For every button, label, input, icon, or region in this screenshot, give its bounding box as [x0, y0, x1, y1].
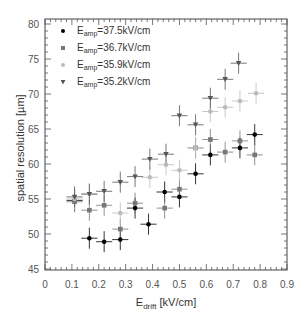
data-point — [177, 195, 182, 200]
data-point — [162, 206, 167, 211]
legend-label-sub: amp — [84, 81, 98, 89]
data-point — [208, 109, 213, 114]
data-point — [102, 203, 107, 208]
data-point — [177, 187, 182, 192]
x-tick-label: 0.9 — [280, 279, 294, 290]
data-point — [162, 190, 167, 195]
data-point — [238, 99, 243, 104]
y-tick-label: 80 — [28, 19, 40, 30]
data-point — [133, 206, 138, 211]
data-point — [252, 132, 257, 137]
y-axis-title: spatial resolution [µm] — [14, 94, 26, 201]
data-point — [146, 222, 151, 227]
data-point — [177, 168, 182, 173]
x-tick-label: 0.2 — [92, 279, 106, 290]
x-tick-label: 0.8 — [253, 279, 267, 290]
legend-label-sub: amp — [84, 64, 98, 72]
data-point — [238, 139, 243, 144]
data-point — [87, 208, 92, 213]
x-tick-label: 0.5 — [172, 279, 186, 290]
x-tick-label: 0.6 — [199, 279, 213, 290]
legend-marker-icon — [61, 46, 65, 50]
y-tick-label: 55 — [28, 194, 40, 205]
legend-marker-icon — [61, 29, 65, 33]
chart: 00.10.20.30.40.50.60.70.80.9455055606570… — [0, 0, 306, 328]
y-tick-label: 70 — [28, 89, 40, 100]
legend-label-value: =37.5kV/cm — [97, 25, 150, 36]
data-point — [193, 146, 198, 151]
data-point — [223, 105, 228, 110]
x-tick-label: 0.3 — [119, 279, 133, 290]
data-point — [164, 162, 169, 167]
legend-label-value: =35.9kV/cm — [97, 59, 150, 70]
x-axis-title-sub: drift — [143, 302, 157, 311]
data-point — [208, 137, 213, 142]
legend-label-value: =35.2kV/cm — [97, 76, 150, 87]
data-point — [102, 239, 107, 244]
y-tick-label: 75 — [28, 54, 40, 65]
legend-label-sub: amp — [84, 30, 98, 38]
legend-label-sub: amp — [84, 47, 98, 55]
legend-marker-icon — [61, 63, 65, 67]
data-point — [238, 146, 243, 151]
data-point — [118, 227, 123, 232]
data-point — [118, 237, 123, 242]
data-point — [208, 153, 213, 158]
legend-label-value: =36.7kV/cm — [97, 42, 150, 53]
y-tick-label: 50 — [28, 229, 40, 240]
data-point — [252, 153, 257, 158]
data-point — [148, 175, 153, 180]
x-tick-label: 0.1 — [65, 279, 79, 290]
x-axis-title-main: E — [136, 296, 143, 308]
data-point — [118, 211, 123, 216]
data-point — [87, 236, 92, 241]
y-tick-label: 65 — [28, 124, 40, 135]
data-point — [254, 91, 259, 96]
data-point — [193, 172, 198, 177]
x-axis-title-unit: [kV/cm] — [156, 296, 196, 308]
x-tick-label: 0 — [42, 279, 48, 290]
y-tick-label: 60 — [28, 159, 40, 170]
x-tick-label: 0.7 — [226, 279, 240, 290]
data-point — [223, 150, 228, 155]
data-point — [133, 201, 138, 206]
x-tick-label: 0.4 — [146, 279, 160, 290]
y-tick-label: 45 — [28, 264, 40, 275]
